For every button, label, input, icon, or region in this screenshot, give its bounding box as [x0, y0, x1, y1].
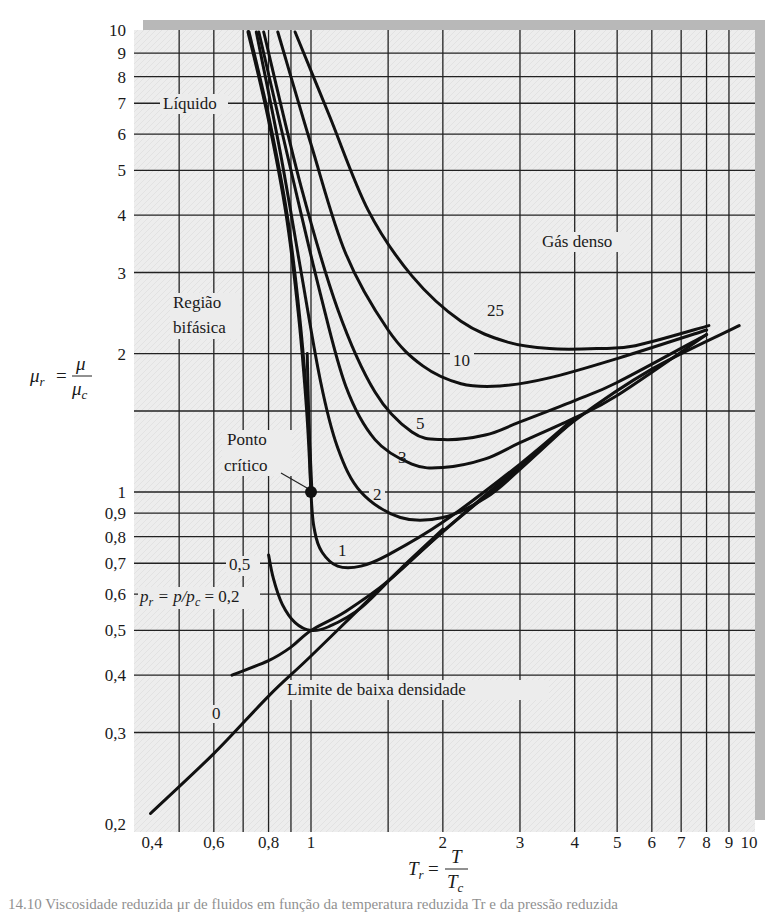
label-critical-line2: crítico — [224, 456, 267, 475]
label-dense-gas: Gás denso — [542, 232, 612, 251]
figure-caption: 14.10 Viscosidade reduzida μr de fluidos… — [8, 896, 768, 914]
y-tick-label: 7 — [118, 94, 127, 113]
curve-label-3: 3 — [398, 448, 407, 467]
svg-text:=: = — [428, 858, 439, 879]
curve-label-0-5: 0,5 — [229, 555, 250, 574]
y-tick-label: 4 — [118, 206, 127, 225]
x-axis-label: Tr = T Tc — [408, 846, 468, 895]
curve-label-0-2: pr = p/pc = 0,2 — [139, 587, 240, 609]
x-tick-label: 0,8 — [258, 833, 279, 852]
x-tick-label: 5 — [613, 833, 622, 852]
y-tick-label: 0,9 — [105, 504, 126, 523]
curve-label-2: 2 — [373, 485, 382, 504]
y-tick-label: 0,3 — [105, 724, 126, 743]
label-two-phase-line1: Região — [173, 293, 221, 312]
x-tick-label: 10 — [741, 833, 758, 852]
curve-label-25: 25 — [487, 301, 504, 320]
x-tick-label: 0,6 — [203, 833, 224, 852]
curve-label-5: 5 — [416, 414, 425, 433]
x-tick-label: 4 — [570, 833, 579, 852]
svg-text:μ: μ — [75, 353, 86, 374]
y-tick-label: 10 — [109, 21, 126, 40]
svg-text:=: = — [56, 365, 67, 386]
y-tick-label: 3 — [118, 264, 127, 283]
label-critical-line1: Ponto — [227, 430, 267, 449]
y-tick-label: 0,2 — [105, 815, 126, 834]
y-tick-label: 1 — [118, 483, 127, 502]
x-tick-label: 8 — [702, 833, 711, 852]
y-tick-labels: 0,20,30,40,50,60,70,80,912345678910 — [105, 21, 127, 834]
x-tick-label: 3 — [516, 833, 525, 852]
svg-text:Tc: Tc — [447, 871, 464, 895]
label-liquid: Líquido — [163, 94, 217, 113]
viscosity-chart: 0,20,30,40,50,60,70,80,912345678910 0,40… — [0, 0, 774, 914]
y-tick-label: 0,6 — [105, 585, 126, 604]
curve-label-0: 0 — [212, 704, 221, 723]
y-tick-label: 0,7 — [105, 554, 127, 573]
y-tick-label: 6 — [118, 125, 127, 144]
label-low-density-limit: Limite de baixa densidade — [287, 680, 466, 699]
svg-text:μc: μc — [71, 378, 88, 402]
y-axis-label: μr = μ μc — [29, 353, 92, 402]
chart-canvas: 0,20,30,40,50,60,70,80,912345678910 0,40… — [0, 0, 774, 914]
y-tick-label: 5 — [118, 161, 127, 180]
x-tick-label: 9 — [725, 833, 734, 852]
label-two-phase-line2: bifásica — [173, 318, 226, 337]
x-tick-label: 0,4 — [141, 833, 163, 852]
y-tick-label: 8 — [118, 68, 127, 87]
x-tick-labels: 0,40,60,812345678910 — [141, 833, 757, 852]
x-tick-label: 2 — [439, 833, 448, 852]
plot-shadow-top — [143, 20, 765, 30]
y-tick-label: 0,8 — [105, 528, 126, 547]
x-tick-label: 1 — [307, 833, 316, 852]
plot-shadow-right — [755, 20, 765, 820]
svg-text:μr: μr — [29, 365, 46, 389]
y-tick-label: 0,5 — [105, 621, 126, 640]
svg-text:Tr: Tr — [408, 858, 425, 882]
curve-label-1: 1 — [338, 541, 347, 560]
x-tick-label: 6 — [648, 833, 657, 852]
x-tick-label: 7 — [677, 833, 686, 852]
curve-label-10: 10 — [453, 351, 470, 370]
svg-text:T: T — [451, 846, 463, 867]
y-tick-label: 9 — [118, 44, 127, 63]
y-tick-label: 2 — [118, 345, 127, 364]
y-tick-label: 0,4 — [105, 666, 127, 685]
